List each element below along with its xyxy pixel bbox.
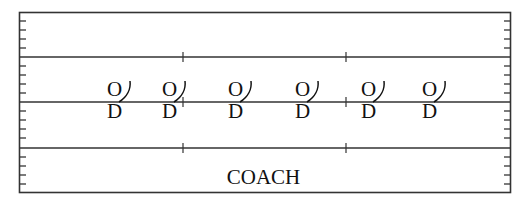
- block-arc-icon: [295, 79, 335, 129]
- player-pair-1: OD: [107, 79, 147, 129]
- coach-label: COACH: [0, 167, 527, 188]
- player-pair-2: OD: [162, 79, 202, 129]
- player-pair-6: OD: [422, 79, 462, 129]
- block-arc-icon: [162, 79, 202, 129]
- player-pair-3: OD: [228, 79, 268, 129]
- block-arc-icon: [422, 79, 462, 129]
- player-pair-4: OD: [295, 79, 335, 129]
- block-arc-icon: [107, 79, 147, 129]
- block-arc-icon: [361, 79, 401, 129]
- player-pair-5: OD: [361, 79, 401, 129]
- block-arc-icon: [228, 79, 268, 129]
